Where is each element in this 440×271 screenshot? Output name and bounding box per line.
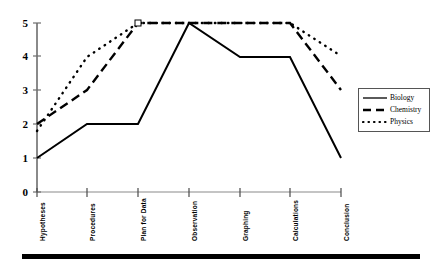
legend-label-chemistry: Chemistry xyxy=(388,106,421,114)
legend-label-physics: Physics xyxy=(388,118,413,126)
datapoint-marker xyxy=(135,20,141,26)
line-chart: 5 4 3 2 1 0 Hypotheses Procedures Plan f… xyxy=(0,0,440,271)
series-line-chemistry xyxy=(37,23,341,124)
x-tick-label-calculations: Calculations xyxy=(293,200,300,241)
chart-legend: Biology Chemistry Physics xyxy=(358,88,430,132)
legend-swatch-dotted-icon xyxy=(362,117,388,127)
legend-swatch-solid-icon xyxy=(362,93,388,103)
x-tick-label-conclusion: Conclusion xyxy=(344,204,351,241)
ytick-5: 5 xyxy=(12,18,28,29)
legend-item-physics: Physics xyxy=(359,116,429,128)
x-tick-label-graphing: Graphing xyxy=(243,211,250,242)
x-tick-label-plan-for-data: Plan for Data xyxy=(141,198,148,241)
x-tick-label-procedures: Procedures xyxy=(90,203,97,241)
ytick-4: 4 xyxy=(12,51,28,62)
legend-item-biology: Biology xyxy=(359,92,429,104)
ytick-0: 0 xyxy=(12,187,28,198)
ytick-1: 1 xyxy=(12,153,28,164)
ytick-2: 2 xyxy=(12,119,28,130)
series-line-biology xyxy=(37,23,341,158)
legend-item-chemistry: Chemistry xyxy=(359,104,429,116)
ytick-3: 3 xyxy=(12,85,28,96)
legend-label-biology: Biology xyxy=(388,94,414,102)
plot-area xyxy=(0,0,440,271)
legend-swatch-dashed-icon xyxy=(362,105,388,115)
series-line-physics xyxy=(37,23,341,131)
x-tick-label-hypotheses: Hypotheses xyxy=(40,202,47,241)
x-tick-label-observation: Observation xyxy=(192,201,199,241)
bottom-divider-rule xyxy=(22,254,420,259)
